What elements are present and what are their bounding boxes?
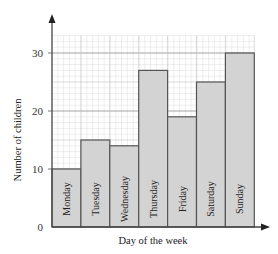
y-tick-labels: 0102030 — [32, 47, 52, 233]
bar-tuesday: Tuesday — [81, 140, 110, 227]
x-axis-arrow-icon — [261, 224, 270, 231]
bar-friday: Friday — [168, 117, 197, 227]
bar-sunday: Sunday — [225, 53, 254, 227]
bar-label: Monday — [61, 182, 72, 215]
y-axis-arrow-icon — [49, 14, 56, 23]
bars: MondayTuesdayWednesdayThursdayFridaySatu… — [52, 53, 254, 227]
y-tick-label: 0 — [38, 221, 44, 233]
bar-monday: Monday — [52, 169, 81, 227]
bar-chart: MondayTuesdayWednesdayThursdayFridaySatu… — [0, 0, 278, 254]
y-tick-label: 10 — [32, 163, 44, 175]
y-tick-label: 20 — [32, 105, 44, 117]
bar-label: Friday — [177, 186, 188, 212]
bar-label: Saturday — [205, 181, 216, 217]
bar-label: Thursday — [148, 180, 159, 218]
bar-label: Wednesday — [119, 176, 130, 222]
y-axis-title: Number of children — [12, 98, 23, 182]
bar-wednesday: Wednesday — [110, 146, 139, 227]
bar-label: Sunday — [234, 184, 245, 214]
bar-label: Tuesday — [90, 182, 101, 216]
x-axis-title: Day of the week — [118, 235, 188, 246]
bar-thursday: Thursday — [139, 70, 168, 227]
bar-saturday: Saturday — [197, 82, 226, 227]
y-tick-label: 30 — [32, 47, 44, 59]
